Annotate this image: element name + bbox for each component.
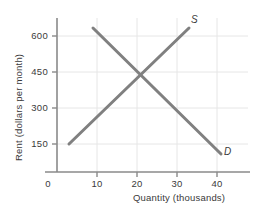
x-tick-label-0: 0: [37, 178, 59, 189]
supply-demand-chart: 600 450 300 150 0 10 20 30 40 Rent (doll…: [0, 0, 253, 209]
vertical-gridlines: [97, 18, 217, 172]
demand-curve: [93, 28, 221, 154]
x-axis-title: Quantity (thousands): [133, 192, 225, 203]
y-axis-title: Rent (dollars per month): [13, 54, 24, 161]
x-tick-label-40: 40: [206, 178, 228, 189]
x-tick-label-20: 20: [126, 178, 148, 189]
demand-curve-label: D: [224, 146, 231, 157]
x-tick-label-30: 30: [166, 178, 188, 189]
supply-curve-label: S: [191, 14, 198, 25]
y-tick-label-600: 600: [16, 30, 48, 41]
x-tick-label-10: 10: [86, 178, 108, 189]
supply-curve: [69, 28, 189, 144]
